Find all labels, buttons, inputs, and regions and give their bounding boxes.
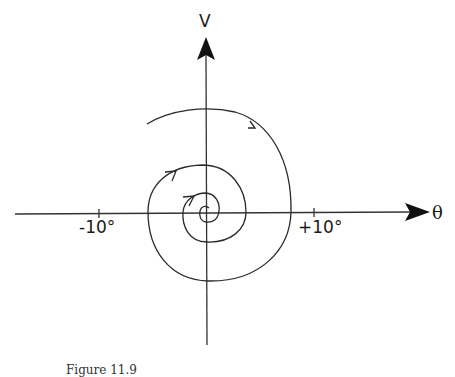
- arrow-chevron-icon: [248, 121, 255, 128]
- horizontal-axis-label: θ: [432, 204, 443, 222]
- horizontal-axis: [15, 203, 430, 221]
- tick-label-pos: +10°: [298, 219, 342, 236]
- vertical-axis-label: V: [199, 13, 211, 30]
- spiral-trajectory: [147, 109, 291, 281]
- figure-caption: Figure 11.9: [66, 364, 137, 376]
- tick-label-neg: -10°: [79, 219, 115, 236]
- vertical-axis: [197, 37, 215, 345]
